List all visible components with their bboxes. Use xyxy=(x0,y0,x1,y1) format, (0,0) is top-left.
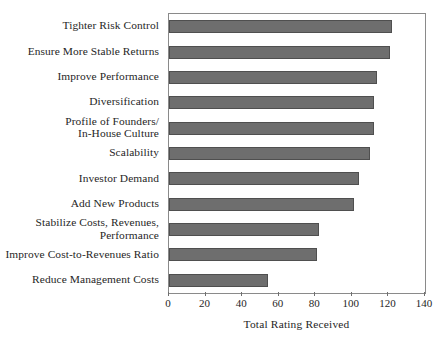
bar xyxy=(169,147,370,160)
bar-row xyxy=(169,141,425,166)
bar xyxy=(169,223,319,236)
bar-row xyxy=(169,90,425,115)
category-label: Improve Performance xyxy=(0,64,164,89)
x-tick-mark xyxy=(168,292,169,296)
category-label: Stabilize Costs, Revenues, Performance xyxy=(0,216,164,241)
x-tick-mark xyxy=(278,292,279,296)
bar xyxy=(169,46,390,59)
category-label: Investor Demand xyxy=(0,165,164,190)
category-label: Ensure More Stable Returns xyxy=(0,38,164,63)
bar-row xyxy=(169,166,425,191)
bar xyxy=(169,122,374,135)
x-tick-mark xyxy=(314,292,315,296)
bar xyxy=(169,96,374,109)
x-tick-label: 60 xyxy=(272,297,283,309)
bar xyxy=(169,198,354,211)
x-tick-label: 100 xyxy=(343,297,360,309)
bar xyxy=(169,20,392,33)
x-tick-mark xyxy=(351,292,352,296)
bars-layer xyxy=(169,14,425,293)
x-tick-mark xyxy=(241,292,242,296)
x-tick-mark xyxy=(424,292,425,296)
bar-row xyxy=(169,242,425,267)
bar xyxy=(169,248,317,261)
category-label: Scalability xyxy=(0,140,164,165)
x-tick-label: 120 xyxy=(379,297,396,309)
bar xyxy=(169,172,359,185)
bar-chart: Tighter Risk Control Ensure More Stable … xyxy=(0,0,440,342)
x-axis-title: Total Rating Received xyxy=(168,318,425,330)
bar-row xyxy=(169,115,425,140)
bar xyxy=(169,71,377,84)
x-tick-label: 40 xyxy=(236,297,247,309)
category-label: Reduce Management Costs xyxy=(0,267,164,292)
category-label: Diversification xyxy=(0,89,164,114)
x-tick-mark xyxy=(205,292,206,296)
x-tick-label: 0 xyxy=(165,297,171,309)
plot-area xyxy=(168,13,426,294)
bar-row xyxy=(169,192,425,217)
x-tick-label: 140 xyxy=(416,297,433,309)
category-axis: Tighter Risk Control Ensure More Stable … xyxy=(0,13,164,292)
x-tick-label: 20 xyxy=(199,297,210,309)
bar-row xyxy=(169,14,425,39)
bar-row xyxy=(169,217,425,242)
x-tick-mark xyxy=(387,292,388,296)
category-label: Add New Products xyxy=(0,191,164,216)
category-label: Improve Cost-to-Revenues Ratio xyxy=(0,241,164,266)
bar-row xyxy=(169,65,425,90)
bar-row xyxy=(169,268,425,293)
bar xyxy=(169,274,268,287)
bar-row xyxy=(169,39,425,64)
category-label: Tighter Risk Control xyxy=(0,13,164,38)
x-tick-label: 80 xyxy=(309,297,320,309)
category-label: Profile of Founders/ In-House Culture xyxy=(0,114,164,139)
